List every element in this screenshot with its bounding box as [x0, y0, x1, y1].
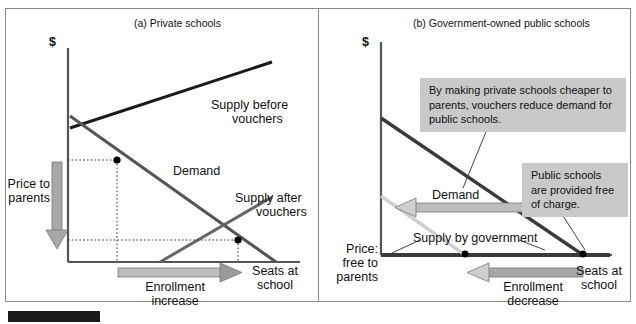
panel-a-curve-demand: [70, 116, 276, 262]
panel-a-price-arrow-label-line2: parents: [0, 192, 50, 206]
panel-b-demand-label: Demand: [432, 189, 479, 203]
panel-a-x-axis-caption-line1: Seats at: [238, 265, 312, 279]
panel-b-enrollment-before: [580, 251, 587, 258]
panel-a-supply-before-label-line1: Supply before: [211, 99, 288, 113]
figure-container: (a) Private schools $ Supply before vouc…: [0, 0, 636, 324]
panel-b-axes: [381, 42, 612, 255]
panel-b-price-label-line2: free to: [318, 257, 378, 271]
panel-a-title: (a) Private schools: [134, 17, 221, 29]
panel-a-x-axis-caption-line2: school: [238, 279, 312, 293]
panel-a-axes: [68, 48, 300, 262]
panel-b-quantity-arrow-label-line2: decrease: [483, 295, 583, 309]
voucher-demand-callout: By making private schools cheaper to par…: [420, 78, 626, 132]
panel-b-enrollment-after: [462, 251, 469, 258]
panel-a-quantity-arrow-label-line2: increase: [120, 295, 230, 309]
panel-a-equilibrium-after: [234, 236, 241, 243]
panel-a-supply-before-label-line2: vouchers: [232, 113, 283, 127]
panel-a-price-arrow: [46, 162, 68, 249]
panel-a-supply-after-label-line2: vouchers: [256, 206, 307, 220]
panel-b-x-axis-caption-line2: school: [566, 279, 632, 293]
panel-a-y-axis-label: $: [49, 35, 56, 49]
panel-b-title: (b) Government-owned public schools: [413, 17, 590, 29]
panel-a-equilibrium-before: [113, 156, 120, 163]
free-of-charge-callout: Public schools are provided free of char…: [522, 163, 628, 217]
panel-a-supply-after-label-line1: Supply after: [235, 192, 302, 206]
page-footer-bar: [8, 311, 100, 322]
panel-a-demand-label: Demand: [173, 165, 220, 179]
panel-b-y-axis-label: $: [362, 35, 369, 49]
panel-b-price-label-line3: parents: [318, 271, 378, 285]
panel-b-supply-by-government-label: Supply by government: [413, 232, 537, 246]
panel-b-x-axis-caption-line1: Seats at: [566, 265, 632, 279]
panel-a-quantity-arrow-label-line1: Enrollment: [120, 281, 230, 295]
panel-b-price-label-line1: Price:: [318, 243, 378, 257]
panel-a-price-arrow-label-line1: Price to: [0, 178, 50, 192]
